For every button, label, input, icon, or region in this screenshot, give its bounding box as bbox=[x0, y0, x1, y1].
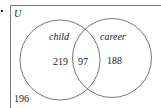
child-only-count: 219 bbox=[53, 57, 68, 67]
universe-label: U bbox=[14, 9, 21, 19]
outside-count: 196 bbox=[14, 94, 29, 104]
intersection-count: 97 bbox=[78, 57, 88, 67]
venn-diagram bbox=[0, 0, 161, 108]
career-only-count: 188 bbox=[107, 56, 122, 66]
set-label-career: career bbox=[100, 32, 126, 42]
set-label-child: child bbox=[49, 32, 69, 42]
